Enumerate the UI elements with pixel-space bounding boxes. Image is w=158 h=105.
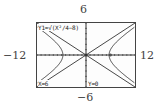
cursor-x-value: X=6 bbox=[38, 80, 48, 87]
graph-plot bbox=[37, 23, 135, 87]
calculator-graph-screen: Y1=√(X²/4−8) X=6 Y=0 bbox=[36, 22, 136, 88]
cursor-y-value: Y=0 bbox=[88, 80, 98, 87]
ymin-label: −6 bbox=[77, 92, 93, 103]
origin-point bbox=[84, 53, 87, 56]
function-label: Y1=√(X²/4−8) bbox=[38, 24, 79, 31]
xmax-label: 12 bbox=[140, 50, 154, 61]
ymax-label: 6 bbox=[80, 4, 87, 15]
xmin-label: −12 bbox=[3, 50, 26, 61]
